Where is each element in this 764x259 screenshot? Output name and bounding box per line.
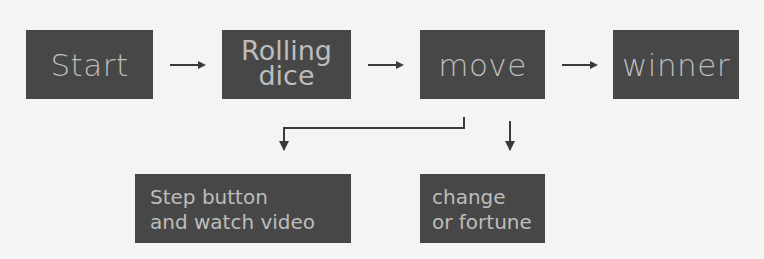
- node-start: Start: [26, 30, 153, 99]
- node-change-fortune-line-1: change: [432, 185, 545, 210]
- node-change-fortune-line-2: or fortune: [432, 210, 545, 235]
- node-start-label: Start: [50, 47, 128, 83]
- node-winner: winner: [613, 30, 739, 99]
- node-move-label: move: [438, 47, 527, 83]
- node-change-fortune: change or fortune: [420, 174, 545, 243]
- arrow-move-to-step-button: [284, 117, 464, 150]
- node-move: move: [420, 30, 545, 99]
- node-rolling-dice: Rolling dice: [222, 30, 351, 99]
- node-step-button: Step button and watch video: [135, 174, 351, 243]
- node-step-button-line-2: and watch video: [150, 210, 351, 235]
- node-rolling-dice-line-2: dice: [222, 63, 351, 88]
- node-winner-label: winner: [622, 47, 730, 83]
- node-step-button-line-1: Step button: [150, 185, 351, 210]
